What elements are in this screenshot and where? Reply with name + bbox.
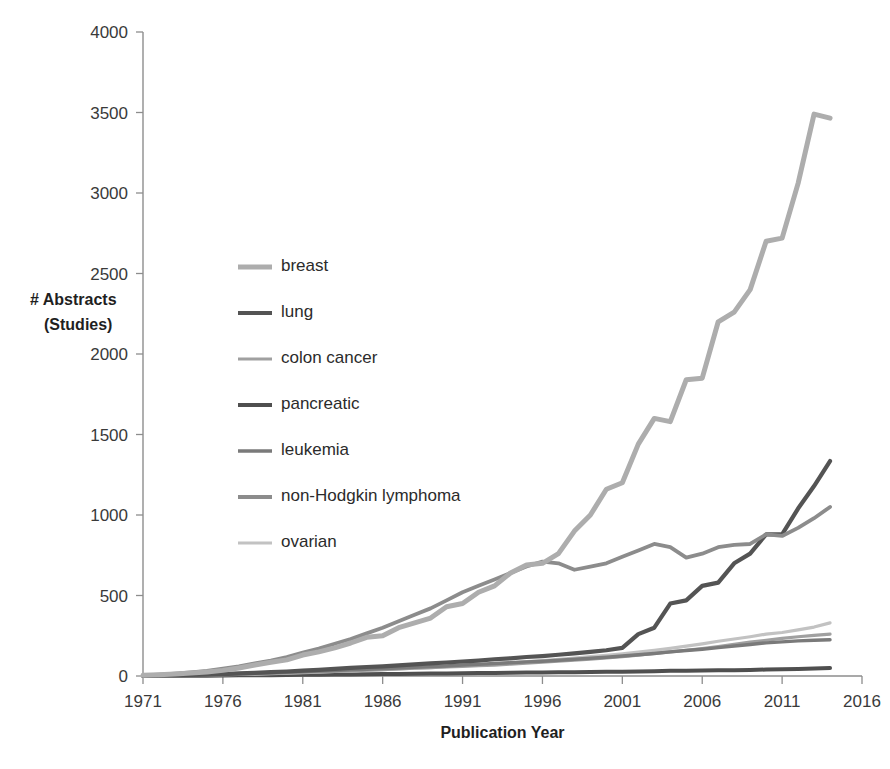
y-tick-label: 1500 — [90, 426, 128, 445]
legend-label-lung: lung — [281, 302, 313, 321]
legend-label-breast: breast — [281, 256, 329, 275]
x-tick-label: 1981 — [284, 692, 322, 711]
x-tick-label: 1971 — [124, 692, 162, 711]
chart-legend: breastlungcolon cancerpancreaticleukemia… — [238, 256, 461, 551]
series-line-lung — [143, 461, 830, 676]
y-tick-label: 500 — [100, 587, 128, 606]
x-tick-label: 2001 — [603, 692, 641, 711]
legend-label-ovarian: ovarian — [281, 532, 337, 551]
y-axis-ticks: 05001000150020002500300035004000 — [90, 23, 143, 686]
legend-label-non-hodgkin-lymphoma: non-Hodgkin lymphoma — [281, 486, 461, 505]
x-axis-ticks: 1971197619811986199119962001200620112016 — [124, 676, 881, 711]
y-axis-title-line1: # Abstracts — [30, 291, 117, 308]
chart-container: 05001000150020002500300035004000 1971197… — [0, 0, 890, 769]
y-tick-label: 3000 — [90, 184, 128, 203]
x-tick-label: 2011 — [764, 692, 801, 711]
x-axis-title: Publication Year — [440, 724, 564, 741]
x-tick-label: 1996 — [524, 692, 562, 711]
y-tick-label: 1000 — [90, 506, 128, 525]
x-tick-label: 1986 — [364, 692, 402, 711]
legend-label-colon-cancer: colon cancer — [281, 348, 378, 367]
legend-label-leukemia: leukemia — [281, 440, 350, 459]
y-tick-label: 3500 — [90, 104, 128, 123]
x-tick-label: 2006 — [683, 692, 721, 711]
legend-label-pancreatic: pancreatic — [281, 394, 360, 413]
y-axis-title-line2: (Studies) — [44, 316, 112, 333]
y-tick-label: 0 — [119, 667, 128, 686]
series-line-breast — [143, 114, 830, 675]
y-tick-label: 2500 — [90, 265, 128, 284]
x-tick-label: 2016 — [843, 692, 881, 711]
x-tick-label: 1991 — [444, 692, 482, 711]
line-chart: 05001000150020002500300035004000 1971197… — [0, 0, 890, 769]
y-tick-label: 4000 — [90, 23, 128, 42]
data-series-group — [143, 114, 830, 676]
x-tick-label: 1976 — [204, 692, 242, 711]
y-tick-label: 2000 — [90, 345, 128, 364]
